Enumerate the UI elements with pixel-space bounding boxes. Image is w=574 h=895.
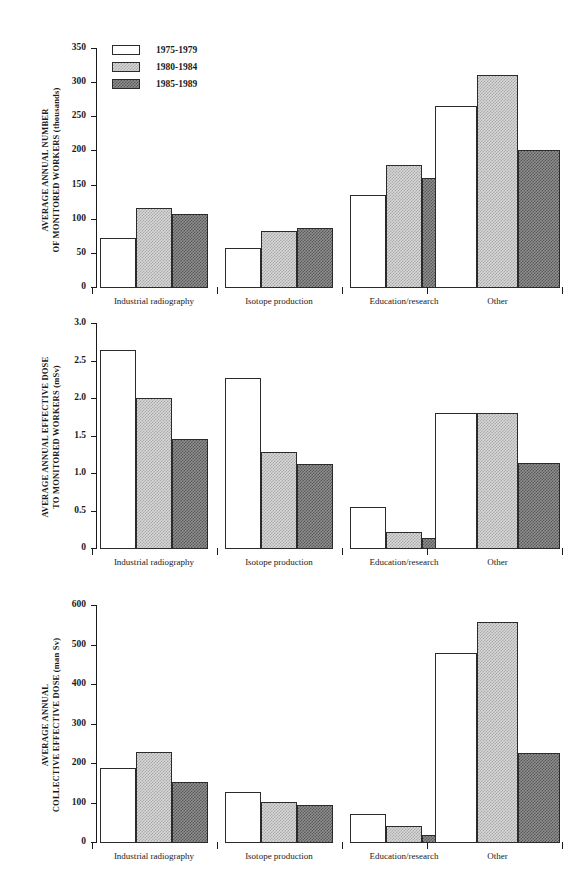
bar-industrial-radiography-1985-1989 xyxy=(172,439,208,549)
y-tick-mark xyxy=(91,724,96,725)
legend-label: 1985-1989 xyxy=(156,78,197,90)
category-separator-tick xyxy=(342,287,343,294)
bar-isotope-production-1985-1989 xyxy=(297,464,333,549)
category-separator-tick xyxy=(427,548,428,555)
chart-panel-1: 050100150200250300350AVERAGE ANNUAL NUMB… xyxy=(0,0,574,310)
legend: 1975-19791980-19841985-1989 xyxy=(112,44,282,96)
y-tick-mark xyxy=(91,398,96,399)
y-tick-mark xyxy=(91,323,96,324)
bar-isotope-production-1975-1979 xyxy=(225,378,261,549)
y-axis-line-2 xyxy=(96,323,97,549)
bar-education-research-1980-1984 xyxy=(386,532,422,550)
y-axis-title-line: AVERAGE ANNUAL xyxy=(40,603,51,847)
y-axis-title-1: AVERAGE ANNUAL NUMBEROF MONITORED WORKER… xyxy=(40,48,62,292)
category-separator-tick xyxy=(217,287,218,294)
category-separator-tick xyxy=(562,548,563,555)
bar-isotope-production-1980-1984 xyxy=(261,452,297,549)
category-label-isotope-production: Isotope production xyxy=(225,558,333,567)
chart-panel-2: 00.51.01.52.02.53.0AVERAGE ANNUAL EFFECT… xyxy=(0,310,574,590)
bar-industrial-radiography-1980-1984 xyxy=(136,208,172,288)
bar-industrial-radiography-1980-1984 xyxy=(136,398,172,549)
bar-industrial-radiography-1975-1979 xyxy=(100,768,136,843)
category-separator-tick xyxy=(562,287,563,294)
category-label-industrial-radiography: Industrial radiography xyxy=(100,558,208,567)
y-tick-mark xyxy=(91,185,96,186)
category-label-other: Other xyxy=(435,558,560,567)
bar-education-research-1980-1984 xyxy=(386,826,422,843)
y-tick-mark xyxy=(91,645,96,646)
category-separator-tick xyxy=(92,287,93,294)
bar-isotope-production-1980-1984 xyxy=(261,231,297,288)
bar-industrial-radiography-1975-1979 xyxy=(100,350,136,549)
bar-isotope-production-1975-1979 xyxy=(225,248,261,288)
y-tick-mark xyxy=(91,511,96,512)
category-separator-tick xyxy=(427,287,428,294)
legend-label: 1975-1979 xyxy=(156,44,197,56)
plot-area-2: 00.51.01.52.02.53.0AVERAGE ANNUAL EFFECT… xyxy=(0,310,574,590)
legend-item-1980-1984: 1980-1984 xyxy=(112,61,282,73)
bar-other-1975-1979 xyxy=(435,413,477,549)
category-separator-tick xyxy=(562,842,563,849)
y-tick-mark xyxy=(91,82,96,83)
bar-industrial-radiography-1985-1989 xyxy=(172,782,208,843)
y-tick-mark xyxy=(91,605,96,606)
y-tick-mark xyxy=(91,803,96,804)
y-tick-mark xyxy=(91,684,96,685)
legend-swatch-light-dotted-box xyxy=(112,62,140,72)
chart-panel-3: 0100200300400500600AVERAGE ANNUALCOLLECT… xyxy=(0,580,574,895)
bar-other-1980-1984 xyxy=(477,413,519,549)
y-tick-mark xyxy=(91,219,96,220)
category-separator-tick xyxy=(427,842,428,849)
bar-industrial-radiography-1980-1984 xyxy=(136,752,172,843)
bar-isotope-production-1980-1984 xyxy=(261,802,297,843)
category-label-industrial-radiography: Industrial radiography xyxy=(100,297,208,306)
y-tick-mark xyxy=(91,253,96,254)
category-separator-tick xyxy=(342,842,343,849)
category-label-isotope-production: Isotope production xyxy=(225,852,333,861)
y-axis-title-line: OF MONITORED WORKERS (thousands) xyxy=(51,48,62,292)
bar-education-research-1975-1979 xyxy=(350,195,386,288)
bar-education-research-1975-1979 xyxy=(350,507,386,549)
category-separator-tick xyxy=(92,548,93,555)
y-tick-mark xyxy=(91,116,96,117)
y-tick-mark xyxy=(91,150,96,151)
y-axis-title-3: AVERAGE ANNUALCOLLECTIVE EFFECTIVE DOSE … xyxy=(40,603,62,847)
y-axis-line-1 xyxy=(96,48,97,288)
y-axis-line-3 xyxy=(96,605,97,843)
category-label-other: Other xyxy=(435,297,560,306)
y-axis-title-line: AVERAGE ANNUAL NUMBER xyxy=(40,48,51,292)
bar-other-1980-1984 xyxy=(477,622,519,843)
y-tick-mark xyxy=(91,361,96,362)
legend-item-1985-1989: 1985-1989 xyxy=(112,78,282,90)
bar-isotope-production-1985-1989 xyxy=(297,805,333,843)
bar-education-research-1980-1984 xyxy=(386,165,422,288)
category-separator-tick xyxy=(342,548,343,555)
y-tick-mark xyxy=(91,473,96,474)
bar-other-1985-1989 xyxy=(518,150,560,288)
figure-page: 050100150200250300350AVERAGE ANNUAL NUMB… xyxy=(0,0,574,895)
y-tick-mark xyxy=(91,763,96,764)
bar-other-1975-1979 xyxy=(435,106,477,288)
bar-other-1975-1979 xyxy=(435,653,477,843)
category-separator-tick xyxy=(92,842,93,849)
y-axis-title-2: AVERAGE ANNUAL EFFECTIVE DOSETO MONITORE… xyxy=(40,321,62,553)
bar-industrial-radiography-1985-1989 xyxy=(172,214,208,288)
bar-other-1985-1989 xyxy=(518,463,560,549)
plot-area-3: 0100200300400500600AVERAGE ANNUALCOLLECT… xyxy=(0,580,574,895)
legend-swatch-dark-dotted-box xyxy=(112,79,140,89)
category-separator-tick xyxy=(217,842,218,849)
bar-other-1980-1984 xyxy=(477,75,519,288)
y-tick-mark xyxy=(91,436,96,437)
bar-industrial-radiography-1975-1979 xyxy=(100,238,136,288)
bar-isotope-production-1975-1979 xyxy=(225,792,261,843)
legend-swatch-white-open-box xyxy=(112,45,140,55)
category-label-industrial-radiography: Industrial radiography xyxy=(100,852,208,861)
bar-education-research-1975-1979 xyxy=(350,814,386,843)
bar-other-1985-1989 xyxy=(518,753,560,843)
bar-isotope-production-1985-1989 xyxy=(297,228,333,288)
legend-label: 1980-1984 xyxy=(156,61,197,73)
category-label-other: Other xyxy=(435,852,560,861)
plot-area-1: 050100150200250300350AVERAGE ANNUAL NUMB… xyxy=(0,0,574,310)
category-label-isotope-production: Isotope production xyxy=(225,297,333,306)
y-axis-title-line: TO MONITORED WORKERS (mSv) xyxy=(51,321,62,553)
